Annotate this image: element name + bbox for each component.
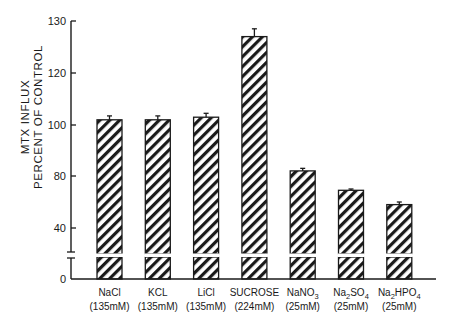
bar: [289, 168, 316, 279]
bars: [96, 29, 413, 279]
bar-break-gap: [96, 254, 123, 258]
y-tick-label: 0: [60, 273, 66, 285]
bar-break-gap: [193, 254, 220, 258]
bar: [193, 113, 220, 279]
y-axis-label-line: PERCENT OF CONTROL: [32, 45, 44, 189]
y-axis: 04080100120130: [48, 15, 76, 285]
bar: [144, 116, 171, 279]
bar: [241, 29, 268, 279]
chart-canvas: MTX INFLUXPERCENT OF CONTROL 04080100120…: [0, 0, 456, 324]
bar-break-gap: [338, 254, 365, 258]
x-tick-label-name: NaNO3​: [287, 287, 319, 301]
y-tick-label: 100: [48, 119, 66, 131]
x-tick-label-conc: (25mM): [285, 301, 319, 312]
x-tick-label-conc: (25mM): [334, 301, 368, 312]
x-tick-label-conc: (135mM): [138, 301, 178, 312]
x-axis: NaCl(135mM)KCL(135mM)LiCl(135mM)SUCROSE(…: [71, 279, 436, 312]
bar-break-gap: [241, 254, 268, 258]
y-axis-label-line: MTX INFLUX: [19, 80, 31, 154]
x-tick-label-name: LiCl: [197, 287, 214, 298]
x-tick-label-conc: (224mM): [234, 301, 274, 312]
x-tick-label-name: NaCl: [98, 287, 120, 298]
x-tick-label-name: KCL: [148, 287, 168, 298]
y-tick-label: 120: [48, 67, 66, 79]
bar-chart: MTX INFLUXPERCENT OF CONTROL 04080100120…: [0, 0, 456, 324]
y-tick-label: 130: [48, 15, 66, 27]
x-tick-label-name: Na2​HPO4​: [378, 287, 421, 301]
x-tick-label-conc: (135mM): [89, 301, 129, 312]
bar-break-gap: [144, 254, 171, 258]
x-tick-label-conc: (25mM): [382, 301, 416, 312]
x-tick-label-name: SUCROSE: [230, 287, 280, 298]
y-tick-label: 80: [54, 170, 66, 182]
bar-break-gap: [386, 254, 413, 258]
bar: [386, 202, 413, 279]
bar-break-gap: [289, 254, 316, 258]
y-axis-label: MTX INFLUXPERCENT OF CONTROL: [19, 45, 44, 189]
bar: [96, 116, 123, 279]
x-tick-label-conc: (135mM): [186, 301, 226, 312]
bar: [338, 189, 365, 279]
x-tick-label-name: Na2​SO4​: [333, 287, 369, 301]
y-tick-label: 40: [54, 222, 66, 234]
